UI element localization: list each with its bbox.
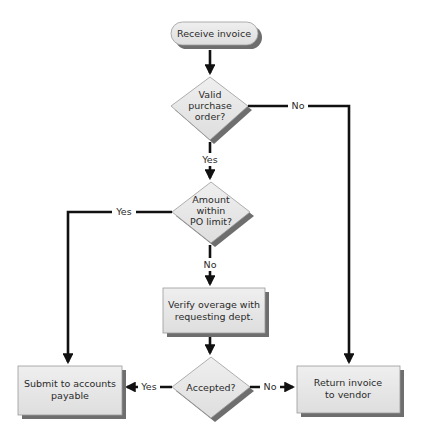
node-verify-line-1: Verify overage with [168, 299, 260, 310]
node-amount-within-limit: Amount within PO limit? [172, 182, 254, 247]
node-accepted-line-1: Accepted? [186, 382, 235, 393]
node-receive-invoice-label: Receive invoice [177, 28, 251, 39]
edge-label-limit-no: No [204, 259, 217, 270]
edge-limit-yes [68, 212, 172, 362]
node-return-line-2: to vendor [325, 389, 371, 400]
node-valid-purchase-order: Valid purchase order? [171, 77, 252, 144]
edge-label-limit-yes: Yes [115, 206, 131, 217]
node-limit-line-2: within [197, 205, 226, 216]
node-accepted: Accepted? [172, 357, 254, 422]
edge-label-accepted-yes: Yes [140, 381, 156, 392]
node-limit-line-1: Amount [192, 194, 230, 205]
node-submit-line-1: Submit to accounts [24, 378, 116, 389]
node-submit-line-2: payable [51, 390, 89, 401]
edge-label-valid-no: No [292, 100, 305, 111]
node-return-invoice: Return invoice to vendor [297, 366, 404, 417]
node-valid-po-line-3: order? [195, 111, 225, 122]
node-valid-po-line-1: Valid [199, 89, 222, 100]
node-submit-to-ap: Submit to accounts payable [18, 366, 126, 419]
node-verify-line-2: requesting dept. [175, 311, 253, 322]
node-return-line-1: Return invoice [314, 377, 383, 388]
node-verify-overage: Verify overage with requesting dept. [163, 288, 269, 337]
edge-label-valid-yes: Yes [201, 154, 217, 165]
node-limit-line-3: PO limit? [190, 216, 232, 227]
node-receive-invoice: Receive invoice [171, 22, 262, 49]
flowchart-canvas: No Yes Yes No Yes No Receive invoice Val… [0, 0, 428, 445]
node-valid-po-line-2: purchase [188, 100, 232, 111]
edge-label-accepted-no: No [264, 381, 277, 392]
